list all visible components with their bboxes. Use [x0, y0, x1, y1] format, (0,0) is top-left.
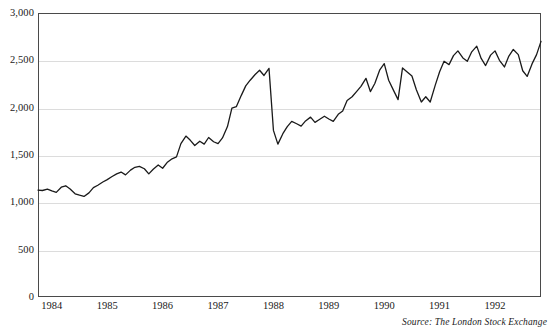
source-note: Source: The London Stock Exchange [402, 317, 547, 327]
y-axis: 05001,0001,5002,0002,5003,000 [0, 13, 34, 297]
gridline [39, 251, 540, 252]
plot-area [38, 13, 541, 297]
y-tick-label: 1,000 [0, 197, 34, 208]
x-tick-label: 1985 [97, 300, 118, 312]
x-tick-label: 1984 [41, 300, 62, 312]
gridline [39, 156, 540, 157]
stock-index-line-chart: 05001,0001,5002,0002,5003,000 1984198519… [0, 0, 560, 336]
x-tick-label: 1992 [485, 300, 506, 312]
y-tick-label: 2,500 [0, 55, 34, 66]
x-axis: 198419851986198719881989199019911992 [38, 300, 541, 316]
x-tick-label: 1991 [429, 300, 450, 312]
x-tick-label: 1989 [318, 300, 339, 312]
y-tick-label: 500 [0, 245, 34, 256]
gridline [39, 203, 540, 204]
gridline [39, 109, 540, 110]
gridline [39, 61, 540, 62]
x-tick-label: 1990 [374, 300, 395, 312]
x-tick-label: 1988 [263, 300, 284, 312]
x-tick-label: 1987 [208, 300, 229, 312]
x-tick-label: 1986 [152, 300, 173, 312]
y-tick-label: 1,500 [0, 150, 34, 161]
y-tick-label: 2,000 [0, 103, 34, 114]
y-tick-label: 3,000 [0, 8, 34, 19]
y-tick-label: 0 [0, 292, 34, 303]
